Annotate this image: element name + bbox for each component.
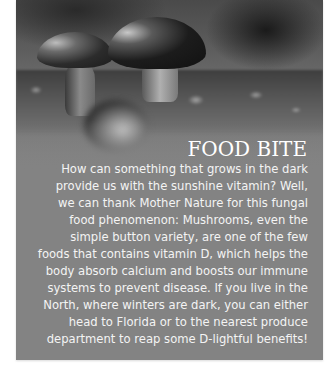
body-line: food phenomenon: Mushrooms, even the: [18, 212, 308, 229]
mushroom-cap-right: [108, 17, 206, 69]
body-line: How can something that grows in the dark: [18, 161, 308, 178]
body-line: North, where winters are dark, you can e…: [18, 297, 308, 314]
body-line: body absorb calcium and boosts our immun…: [18, 263, 308, 280]
food-bite-card: FOOD BITE How can something that grows i…: [16, 0, 323, 360]
blurred-mushroom: [84, 100, 148, 152]
body-line: systems to prevent disease. If you live …: [18, 280, 308, 297]
body-line: department to reap some D-lightful benef…: [18, 331, 308, 348]
mushroom-stem-left: [65, 64, 95, 116]
body-line: head to Florida or to the nearest produc…: [18, 314, 308, 331]
body-line: simple button variety, are one of the fe…: [18, 229, 308, 246]
article-title: FOOD BITE: [187, 138, 307, 160]
body-line: foods that contains vitamin D, which hel…: [18, 246, 308, 263]
mushroom-cap-left: [37, 32, 113, 68]
body-line: we can thank Mother Nature for this fung…: [18, 195, 308, 212]
article-body: How can something that grows in the dark…: [18, 161, 308, 348]
body-line: provide us with the sunshine vitamin? We…: [18, 178, 308, 195]
